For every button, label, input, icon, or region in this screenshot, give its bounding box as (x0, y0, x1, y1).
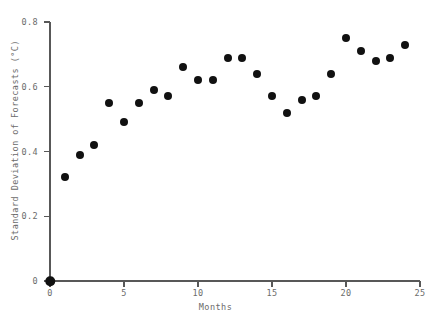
x-axis-title-text: Months (199, 302, 233, 312)
data-point (209, 76, 217, 84)
data-point (164, 92, 172, 100)
data-point (135, 99, 143, 107)
y-axis-title-text: Standard Deviation of Forecasts (°C) (11, 40, 20, 240)
x-axis-title: Months (0, 303, 431, 312)
y-axis-tick (44, 86, 50, 87)
data-point (312, 92, 320, 100)
data-point (45, 276, 55, 286)
x-axis-tick (345, 281, 346, 287)
x-axis-tick (197, 281, 198, 287)
plot-area: 00.20.40.60.8 0510152025 Standard Deviat… (0, 0, 431, 325)
x-axis-tick-label: 25 (414, 289, 425, 298)
data-point (268, 92, 276, 100)
scatter-chart: 00.20.40.60.8 0510152025 Standard Deviat… (0, 0, 431, 325)
data-point (194, 76, 202, 84)
data-point (283, 109, 291, 117)
data-point (76, 151, 84, 159)
x-axis-tick-label: 15 (266, 289, 277, 298)
y-axis-title: Standard Deviation of Forecasts (°C) (8, 0, 22, 280)
y-axis-tick (44, 216, 50, 217)
data-point (298, 96, 306, 104)
data-point (224, 54, 232, 62)
data-point (61, 173, 69, 181)
data-point (342, 34, 350, 42)
x-axis-tick-label: 20 (340, 289, 351, 298)
data-point (150, 86, 158, 94)
data-point (327, 70, 335, 78)
x-axis-tick-label: 5 (121, 289, 127, 298)
y-axis-tick (44, 21, 50, 22)
data-point (401, 41, 409, 49)
data-point (120, 118, 128, 126)
x-axis-line (50, 280, 420, 282)
data-point (105, 99, 113, 107)
y-axis-tick-label: 0.4 (21, 148, 38, 157)
data-point (372, 57, 380, 65)
y-axis-tick (44, 151, 50, 152)
y-axis-tick-label: 0 (32, 277, 38, 286)
data-point (357, 47, 365, 55)
data-point (238, 54, 246, 62)
data-point (179, 63, 187, 71)
x-axis-tick-label: 10 (192, 289, 203, 298)
x-axis-tick-label: 0 (47, 289, 53, 298)
x-axis-tick (123, 281, 124, 287)
data-point (253, 70, 261, 78)
x-axis-tick (271, 281, 272, 287)
y-axis-tick-label: 0.8 (21, 18, 38, 27)
data-point (386, 54, 394, 62)
x-axis-tick (419, 281, 420, 287)
data-point (90, 141, 98, 149)
y-axis-tick-label: 0.6 (21, 83, 38, 92)
y-axis-tick-label: 0.2 (21, 212, 38, 221)
